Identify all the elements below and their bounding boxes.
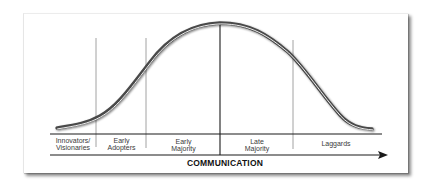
- segment-label-laggards: Laggards: [294, 140, 378, 147]
- segment-label-early-adopters: Early Adopters: [97, 137, 146, 151]
- axis-label-communication: COMMUNICATION: [160, 158, 290, 168]
- segment-label-late-majority: Late Majority: [221, 138, 293, 152]
- bell-curve: [57, 23, 373, 130]
- segment-label-early-majority: Early Majority: [147, 138, 220, 152]
- segment-label-innovators: Innovators/ Visionaries: [50, 137, 96, 151]
- bell-curve-diagram: [0, 0, 429, 183]
